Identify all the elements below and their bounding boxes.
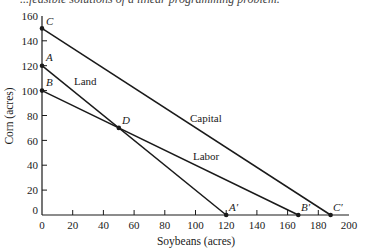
label-A-prime: A′: [228, 201, 239, 213]
line-labels: Land Capital Labor: [74, 75, 222, 162]
x-tick-label: 140: [249, 219, 266, 231]
labor-label: Labor: [193, 150, 220, 162]
x-tick-label: 20: [67, 219, 79, 231]
y-ticks: [42, 41, 47, 190]
chart: 0 20 40 60 80 100 120 140 160 180 200 0 …: [0, 0, 372, 252]
y-tick-label: 100: [22, 85, 39, 97]
label-B-prime: B′: [301, 201, 311, 213]
y-tick-labels: 0 20 40 60 80 100 120 140 160: [22, 10, 39, 216]
label-B: B: [46, 76, 53, 88]
x-tick-label: 100: [187, 219, 204, 231]
capital-label: Capital: [190, 112, 222, 124]
y-tick-label: 160: [22, 10, 39, 22]
x-tick-label: 180: [310, 219, 327, 231]
point-B: [40, 88, 45, 93]
label-C-prime: C′: [333, 201, 343, 213]
point-C-prime: [328, 213, 333, 218]
y-tick-label: 80: [27, 110, 39, 122]
land-label: Land: [74, 75, 97, 87]
y-tick-label: 0: [33, 204, 39, 216]
x-tick-label: 40: [98, 219, 110, 231]
x-tick-label: 200: [341, 219, 358, 231]
x-tick-label: 120: [218, 219, 235, 231]
point-B-prime: [296, 213, 301, 218]
y-tick-label: 20: [27, 184, 39, 196]
point-A-prime: [224, 213, 229, 218]
y-tick-label: 120: [22, 60, 39, 72]
x-ticks: [73, 210, 319, 215]
label-D: D: [121, 114, 130, 126]
x-tick-label: 0: [39, 219, 45, 231]
y-tick-label: 140: [22, 35, 39, 47]
capital-line: [42, 28, 331, 215]
x-tick-labels: 0 20 40 60 80 100 120 140 160 180 200: [39, 219, 358, 231]
y-tick-label: 40: [27, 159, 39, 171]
constraint-lines: [42, 28, 331, 215]
label-C: C: [46, 15, 54, 27]
label-A: A: [45, 51, 53, 63]
labor-line: [42, 91, 298, 215]
point-A: [40, 63, 45, 68]
point-C: [40, 26, 45, 31]
point-D: [117, 126, 122, 131]
y-tick-label: 60: [27, 135, 39, 147]
x-tick-label: 160: [279, 219, 296, 231]
x-tick-label: 60: [129, 219, 141, 231]
y-axis-label: Corn (acres): [3, 87, 16, 144]
x-tick-label: 80: [159, 219, 171, 231]
x-axis-label: Soybeans (acres): [157, 235, 235, 248]
